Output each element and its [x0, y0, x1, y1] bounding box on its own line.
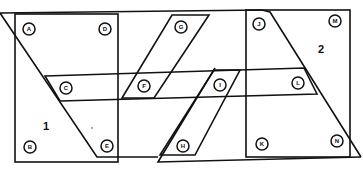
parallelogram-g-f [122, 15, 209, 98]
svg-text:H: H [181, 143, 185, 149]
node-m: M [329, 15, 341, 27]
svg-text:M: M [333, 18, 338, 24]
node-e: E [101, 140, 113, 152]
tangram-diagram: ' 1 2 A D G J M C F I L B E H K N [0, 0, 363, 171]
node-l: L [292, 77, 304, 89]
node-d: D [99, 23, 111, 35]
svg-text:B: B [28, 144, 33, 150]
node-i: I [214, 79, 226, 91]
svg-text:E: E [105, 143, 109, 149]
node-c: C [60, 82, 72, 94]
tick-mark: ' [91, 125, 93, 135]
node-g: G [175, 21, 187, 33]
region-label-1: 1 [43, 120, 49, 132]
svg-text:D: D [103, 26, 108, 32]
node-n: N [331, 135, 343, 147]
svg-text:C: C [64, 85, 69, 91]
node-j: J [253, 18, 265, 30]
svg-text:G: G [179, 24, 184, 30]
svg-text:A: A [27, 26, 32, 32]
node-k: K [256, 138, 268, 150]
node-f: F [138, 80, 150, 92]
svg-text:F: F [142, 83, 146, 89]
svg-text:J: J [257, 21, 260, 27]
svg-text:K: K [260, 141, 265, 147]
parallelogram-i-h [160, 70, 240, 155]
node-a: A [23, 23, 35, 35]
svg-text:L: L [296, 80, 300, 86]
region-label-2: 2 [318, 43, 324, 55]
node-b: B [24, 141, 36, 153]
node-h: H [177, 140, 189, 152]
middle-band-parallelogram [45, 68, 317, 101]
svg-text:N: N [335, 138, 339, 144]
